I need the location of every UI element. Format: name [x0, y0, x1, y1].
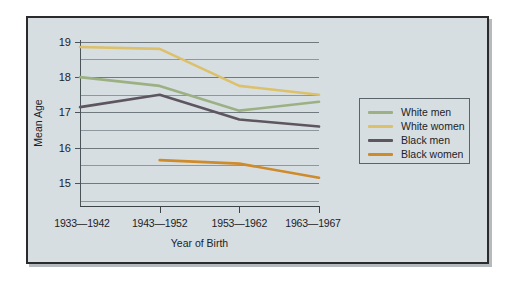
- legend-item-label: Black men: [401, 134, 450, 146]
- legend-item-label: White women: [401, 120, 465, 132]
- series-line: [160, 160, 319, 178]
- legend-item[interactable]: Black women: [360, 147, 469, 161]
- series-line: [80, 77, 319, 111]
- legend-item[interactable]: White men: [360, 105, 469, 119]
- y-axis-tick-label: 19: [59, 36, 71, 48]
- x-axis-tick-label: 1933—1942: [54, 217, 109, 229]
- legend-item-label: Black women: [401, 148, 463, 160]
- x-axis-tick: [239, 206, 240, 213]
- legend-item-label: White men: [401, 106, 451, 118]
- series-line: [80, 47, 319, 95]
- legend-swatch-icon: [368, 153, 393, 156]
- x-axis-title: Year of Birth: [80, 237, 319, 249]
- legend-item-list: White menWhite womenBlack menBlack women: [360, 99, 469, 163]
- x-axis-tick-label: 1943—1952: [132, 217, 187, 229]
- y-axis-title: Mean Age: [32, 99, 44, 146]
- y-axis-tick-label: 16: [59, 142, 71, 154]
- plot-area: 1516171819 1933—19421943—19521953—196219…: [80, 40, 319, 206]
- plot-wrapper: 1516171819 1933—19421943—19521953—196219…: [28, 18, 491, 266]
- legend-item[interactable]: Black men: [360, 133, 469, 147]
- legend-swatch-icon: [368, 111, 393, 114]
- chart-legend: White menWhite womenBlack menBlack women: [359, 98, 470, 164]
- x-axis-tick-label: 1953—1962: [212, 217, 267, 229]
- y-axis-tick-label: 15: [59, 177, 71, 189]
- series-lines: [80, 40, 319, 206]
- y-axis-tick-label: 17: [59, 106, 71, 118]
- legend-swatch-icon: [368, 125, 393, 128]
- x-axis-tick: [319, 206, 320, 213]
- y-axis-tick-label: 18: [59, 71, 71, 83]
- x-axis-spine: [80, 206, 319, 207]
- x-axis-tick: [160, 206, 161, 213]
- chart-plate: 1516171819 1933—19421943—19521953—196219…: [26, 16, 489, 264]
- x-axis-tick-label: 1963—1967: [285, 217, 340, 229]
- legend-item[interactable]: White women: [360, 119, 469, 133]
- legend-swatch-icon: [368, 139, 393, 142]
- figure-canvas: 1516171819 1933—19421943—19521953—196219…: [0, 0, 515, 282]
